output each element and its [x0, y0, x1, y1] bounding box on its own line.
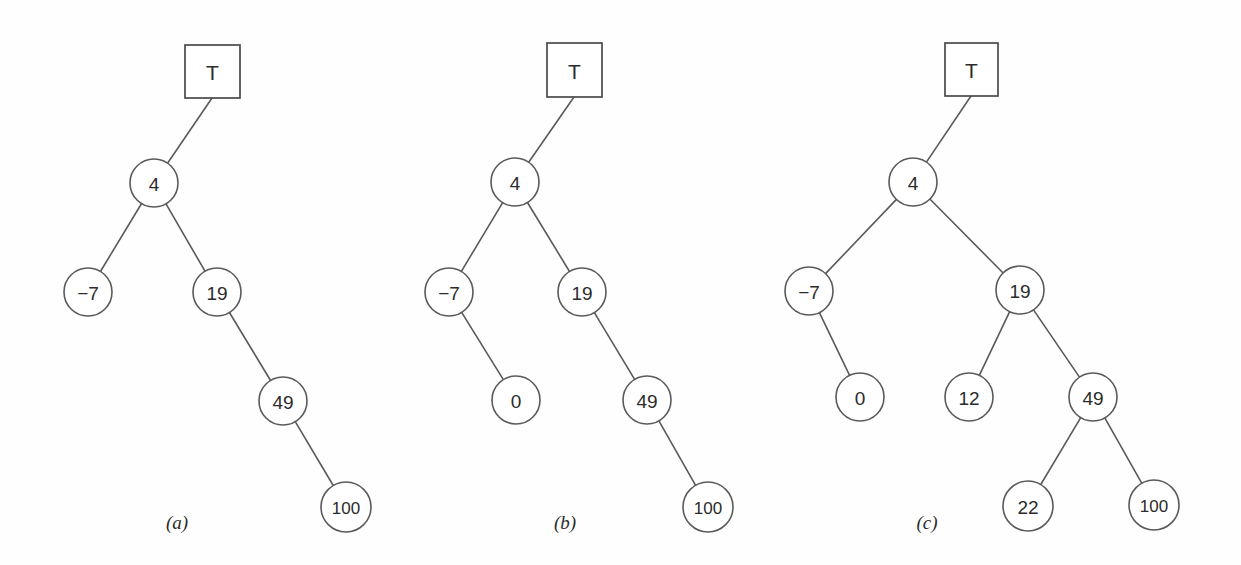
- tree-edge: [926, 96, 971, 162]
- tree-node-label: 49: [272, 392, 293, 413]
- tree-edge: [826, 199, 897, 273]
- tree-node-label: 4: [149, 174, 160, 195]
- tree-node-label: 12: [958, 388, 979, 409]
- tree-node-label: 100: [1140, 497, 1168, 516]
- root-pointer-label: T: [568, 60, 581, 83]
- tree-edge: [527, 203, 569, 272]
- panel-caption-c: (c): [916, 512, 937, 534]
- panel-caption-b: (b): [554, 512, 576, 534]
- tree-edge: [819, 313, 849, 376]
- tree-node-label: 0: [855, 388, 866, 409]
- tree-edge: [295, 422, 333, 486]
- nodes-layer: T4−71949100T4−719049100T4−7190124922100: [64, 43, 1179, 532]
- tree-edge: [462, 312, 504, 379]
- tree-edge: [1041, 418, 1081, 485]
- panel-caption-a: (a): [166, 512, 188, 534]
- tree-node-label: 0: [511, 391, 522, 412]
- tree-node-label: 4: [908, 173, 919, 194]
- tree-node-label: 19: [571, 283, 592, 304]
- tree-edge: [1034, 310, 1080, 377]
- tree-edge: [168, 98, 212, 163]
- tree-node-label: −7: [77, 283, 99, 304]
- tree-node-label: 19: [206, 283, 227, 304]
- tree-node-label: 4: [510, 173, 521, 194]
- tree-edge: [166, 204, 205, 271]
- binary-search-tree-figure: T4−71949100T4−719049100T4−7190124922100 …: [0, 0, 1241, 565]
- tree-edge: [594, 313, 634, 380]
- tree-node-label: −7: [438, 283, 460, 304]
- tree-edge: [100, 204, 141, 272]
- tree-node-label: 19: [1009, 281, 1030, 302]
- tree-edge: [930, 199, 1003, 273]
- tree-node-label: 100: [332, 499, 360, 518]
- tree-edge: [979, 312, 1009, 376]
- tree-edge: [659, 421, 696, 485]
- tree-node-label: 22: [1017, 497, 1038, 518]
- tree-edge: [461, 203, 502, 272]
- tree-edge: [1105, 418, 1142, 483]
- tree-edge: [229, 313, 270, 381]
- tree-node-label: −7: [798, 282, 820, 303]
- tree-node-label: 49: [1082, 388, 1103, 409]
- root-pointer-label: T: [206, 61, 219, 84]
- figure-root: T4−71949100T4−719049100T4−7190124922100 …: [0, 0, 1241, 565]
- captions-layer: (a)(b)(c): [166, 512, 938, 534]
- edges-layer: [100, 96, 1141, 486]
- tree-edge: [529, 97, 574, 162]
- root-pointer-label: T: [965, 59, 978, 82]
- tree-node-label: 49: [636, 391, 657, 412]
- tree-node-label: 100: [694, 499, 722, 518]
